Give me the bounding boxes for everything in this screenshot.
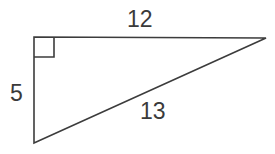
side-label-hypotenuse: 13 — [140, 100, 166, 123]
side-label-left-leg: 5 — [10, 82, 23, 105]
triangle-outline — [34, 37, 266, 143]
side-label-top-leg: 12 — [127, 8, 153, 31]
right-angle-marker-icon — [34, 37, 54, 57]
triangle-figure: 12 5 13 — [0, 0, 275, 154]
